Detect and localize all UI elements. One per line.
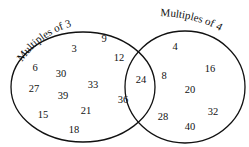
label-multiples-of-3-text: Multiples of 3 xyxy=(14,17,73,63)
number-15: 15 xyxy=(38,109,49,120)
venn-diagram: Multiples of 3 Multiples of 4 xyxy=(0,0,249,147)
number-30: 30 xyxy=(56,68,67,79)
number-18: 18 xyxy=(69,124,80,135)
number-27: 27 xyxy=(29,83,40,94)
label-multiples-of-4-text: Multiples of 4 xyxy=(160,6,225,33)
label-multiples-of-4: Multiples of 4 xyxy=(160,6,225,33)
number-8: 8 xyxy=(161,70,166,81)
number-3: 3 xyxy=(71,43,76,54)
number-32: 32 xyxy=(208,106,219,117)
number-6: 6 xyxy=(32,62,37,73)
number-24: 24 xyxy=(136,74,147,85)
number-36: 36 xyxy=(118,94,129,105)
label-multiples-of-3: Multiples of 3 xyxy=(14,17,73,63)
number-16: 16 xyxy=(205,63,216,74)
number-33: 33 xyxy=(88,79,99,90)
number-40: 40 xyxy=(185,121,196,132)
number-39: 39 xyxy=(58,90,69,101)
number-20: 20 xyxy=(185,84,196,95)
number-21: 21 xyxy=(81,105,92,116)
number-12: 12 xyxy=(114,52,125,63)
number-9: 9 xyxy=(101,33,106,44)
number-28: 28 xyxy=(158,111,169,122)
number-4: 4 xyxy=(172,41,177,52)
